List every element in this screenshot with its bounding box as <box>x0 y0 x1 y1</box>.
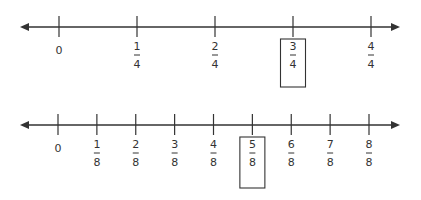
tick-group: 28 <box>132 114 139 169</box>
fraction-numerator: 1 <box>134 40 141 53</box>
fraction-numerator: 7 <box>327 138 334 151</box>
left-arrow-icon <box>20 23 29 31</box>
number-line-eighths: 01828384858687888 <box>20 114 400 188</box>
fraction-denominator: 8 <box>210 156 217 169</box>
right-arrow-icon <box>391 23 400 31</box>
tick-group: 0 <box>56 16 63 57</box>
fraction-denominator: 8 <box>327 156 334 169</box>
fraction-denominator: 8 <box>249 156 256 169</box>
tick-group: 14 <box>134 16 141 71</box>
fraction-denominator: 8 <box>171 156 178 169</box>
tick-group: 38 <box>171 114 178 169</box>
fraction-denominator: 4 <box>290 58 297 71</box>
fraction-denominator: 4 <box>368 58 375 71</box>
fraction-numerator: 1 <box>93 138 100 151</box>
fraction-denominator: 8 <box>132 156 139 169</box>
tick-group: 0 <box>55 114 62 155</box>
fraction-numerator: 4 <box>210 138 217 151</box>
right-arrow-icon <box>391 121 400 129</box>
fraction-numerator: 6 <box>288 138 295 151</box>
fraction-numerator: 8 <box>366 138 373 151</box>
fraction-numerator: 5 <box>249 138 256 151</box>
fraction-denominator: 4 <box>134 58 141 71</box>
fraction-numerator: 2 <box>212 40 219 53</box>
tick-group: 44 <box>368 16 375 71</box>
fraction-denominator: 8 <box>93 156 100 169</box>
left-arrow-icon <box>20 121 29 129</box>
tick-group: 68 <box>288 114 295 169</box>
tick-group: 48 <box>210 114 217 169</box>
number-line-diagram: 01424344401828384858687888 <box>0 0 421 200</box>
tick-label: 0 <box>56 44 63 57</box>
tick-group: 18 <box>93 114 100 169</box>
fraction-numerator: 4 <box>368 40 375 53</box>
fraction-denominator: 8 <box>288 156 295 169</box>
tick-group: 88 <box>366 114 373 169</box>
fraction-denominator: 4 <box>212 58 219 71</box>
tick-group: 78 <box>327 114 334 169</box>
number-line-fourths: 014243444 <box>20 16 400 87</box>
fraction-denominator: 8 <box>366 156 373 169</box>
tick-group: 24 <box>212 16 219 71</box>
fraction-numerator: 3 <box>290 40 297 53</box>
fraction-numerator: 2 <box>132 138 139 151</box>
fraction-numerator: 3 <box>171 138 178 151</box>
tick-label: 0 <box>55 142 62 155</box>
